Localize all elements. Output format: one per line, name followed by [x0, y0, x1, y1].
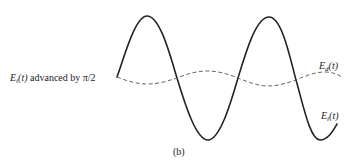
figure-caption: (b) — [173, 147, 185, 157]
label-arg: (t) — [329, 110, 338, 121]
label-arg: (t) — [329, 60, 338, 71]
label-ei: Ei(t) — [321, 111, 339, 123]
ed-dashed-curve — [117, 71, 342, 86]
label-ei-advanced: Ei(t) advanced by π/2 — [10, 73, 96, 85]
label-text: advanced by π/2 — [28, 72, 96, 83]
label-ed: Ed(t) — [319, 61, 338, 73]
ei-solid-curve — [117, 16, 337, 140]
label-arg: (t) — [18, 72, 27, 83]
